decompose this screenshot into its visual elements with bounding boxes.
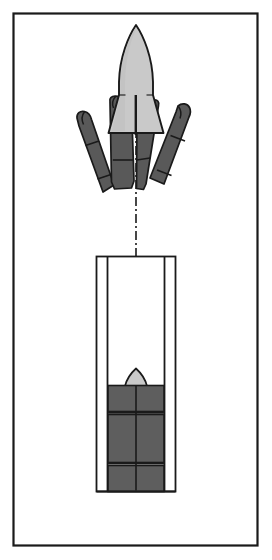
- missile-ejection-diagram: [0, 0, 272, 560]
- missile-tail-slot: [135, 95, 137, 135]
- launch-tube-with-stowed-missile: [97, 257, 176, 492]
- figure-root: [0, 0, 272, 560]
